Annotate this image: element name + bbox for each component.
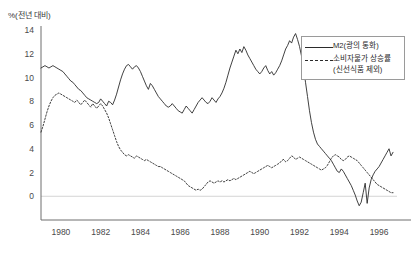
chart-legend: M2(광의 통화) 소비자물가 상승률 (신선식품 제외) <box>301 36 405 80</box>
x-tick-label: 1982 <box>91 227 110 237</box>
y-tick-label: 4 <box>29 144 34 154</box>
x-tick-label: 1980 <box>51 227 70 237</box>
legend-label-m2: M2(광의 통화) <box>333 40 379 51</box>
x-tick-label: 1992 <box>290 227 309 237</box>
y-tick-label: 10 <box>25 73 35 83</box>
x-axis-ticks: 198019821984198619881990199219941996 <box>51 227 388 237</box>
x-tick-label: 1996 <box>370 227 389 237</box>
legend-item-cpi: 소비자물가 상승률 (신선식품 제외) <box>305 53 400 75</box>
y-tick-label: 14 <box>25 25 35 35</box>
x-tick-label: 1986 <box>171 227 190 237</box>
legend-label-cpi-line1: 소비자물가 상승률 <box>333 54 391 63</box>
chart-container: %(전년 대비) 02468101214 1980198219841986198… <box>0 0 418 264</box>
legend-label-cpi-line2: (신선식품 제외) <box>333 65 382 74</box>
legend-label-cpi: 소비자물가 상승률 (신선식품 제외) <box>333 53 391 75</box>
legend-line-sample-dotted <box>305 56 333 66</box>
x-tick-label: 1984 <box>131 227 150 237</box>
x-tick-label: 1990 <box>250 227 269 237</box>
y-tick-label: 12 <box>25 49 35 59</box>
y-tick-label: 8 <box>29 96 34 106</box>
y-tick-label: 0 <box>29 191 34 201</box>
x-tick-label: 1988 <box>211 227 230 237</box>
y-tick-label: 6 <box>29 120 34 130</box>
series-line-cpi <box>41 93 393 193</box>
x-tick-label: 1994 <box>330 227 349 237</box>
y-tick-label: 2 <box>29 168 34 178</box>
legend-line-sample-solid <box>305 43 333 53</box>
y-axis-ticks: 02468101214 <box>25 25 35 201</box>
legend-item-m2: M2(광의 통화) <box>305 40 400 53</box>
